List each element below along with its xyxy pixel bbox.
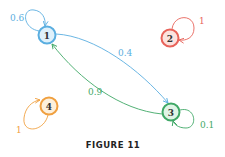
edge-1-to-3: 0.4 bbox=[56, 34, 168, 103]
edge-label-1-3: 0.4 bbox=[118, 48, 133, 58]
node-2-label: 2 bbox=[167, 34, 173, 44]
node-1: 1 bbox=[39, 27, 56, 44]
node-4-label: 4 bbox=[46, 102, 52, 112]
edge-label-1-1: 0.6 bbox=[10, 13, 25, 23]
edge-1-to-1: 0.6 bbox=[10, 10, 45, 31]
edge-label-3-1: 0.9 bbox=[88, 87, 103, 97]
edge-label-4-4: 1 bbox=[16, 125, 22, 135]
node-3-label: 3 bbox=[168, 108, 174, 118]
node-3: 3 bbox=[163, 104, 180, 121]
node-1-label: 1 bbox=[44, 31, 50, 41]
edge-label-3-3: 0.1 bbox=[200, 120, 214, 130]
edge-label-2-2: 1 bbox=[199, 16, 205, 26]
edge-3-to-1: 0.9 bbox=[52, 44, 162, 114]
node-2: 2 bbox=[162, 30, 179, 47]
node-4: 4 bbox=[41, 98, 58, 115]
figure-caption: FIGURE 11 bbox=[86, 140, 141, 150]
markov-chain-diagram: 0.6 1 0.4 0.9 0.1 1 1 2 3 4 FIGU bbox=[0, 0, 225, 157]
